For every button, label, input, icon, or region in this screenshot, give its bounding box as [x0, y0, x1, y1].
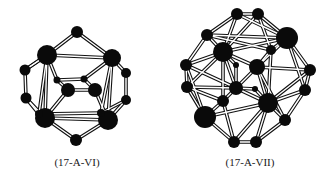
atom-node	[217, 95, 229, 107]
atom-node	[121, 68, 131, 78]
atom-node	[71, 26, 83, 38]
atom-node	[35, 110, 43, 118]
atom-node	[21, 93, 32, 104]
atom-node	[20, 65, 31, 76]
atom-node	[121, 95, 131, 105]
atom-node	[54, 77, 61, 84]
atom-node	[266, 45, 276, 55]
bond-line	[187, 87, 236, 88]
atom-node	[304, 64, 316, 76]
atom-node	[299, 84, 311, 96]
atom-node	[103, 49, 121, 67]
atom-node	[37, 45, 57, 65]
bond-line	[57, 79, 84, 80]
atom-node	[233, 62, 239, 68]
caption-17-a-vii: (17-A-VII)	[226, 156, 275, 168]
atom-node	[252, 86, 258, 92]
atom-node	[249, 59, 265, 75]
atom-node	[88, 83, 102, 97]
cluster-structures-diagram	[0, 0, 332, 176]
atom-node	[97, 109, 105, 117]
atom-node	[213, 42, 233, 62]
atom-node	[258, 93, 278, 113]
atom-node	[180, 59, 192, 71]
atom-node	[70, 134, 82, 146]
atom-node	[194, 106, 216, 128]
atom-node	[228, 136, 240, 148]
structure-17-a-vi	[20, 26, 132, 146]
atom-node	[279, 114, 291, 126]
atom-node	[81, 76, 88, 83]
atom-node	[231, 8, 243, 20]
atom-node	[276, 27, 298, 49]
atom-node	[61, 83, 75, 97]
caption-17-a-vi: (17-A-VI)	[54, 156, 99, 168]
atom-node	[250, 136, 262, 148]
atom-node	[181, 81, 193, 93]
atom-node	[201, 29, 213, 41]
atom-node	[252, 8, 264, 20]
atom-node	[229, 81, 243, 95]
structure-17-a-vii	[180, 8, 316, 148]
atoms	[20, 26, 132, 146]
